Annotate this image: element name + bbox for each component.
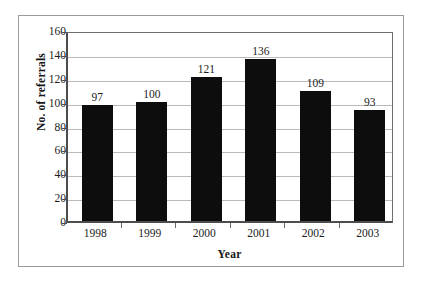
- x-axis-tick-mark: [284, 223, 285, 228]
- bar[interactable]: [354, 110, 385, 221]
- bar[interactable]: [82, 105, 113, 221]
- y-axis-tick-mark: [62, 223, 67, 224]
- bar-value-label: 93: [343, 96, 398, 108]
- y-axis-tick-label: 60: [32, 146, 66, 158]
- y-axis-tick-label: 0: [32, 217, 66, 229]
- plot-area: 9710012113610993: [66, 32, 393, 223]
- x-axis-tick-mark: [121, 223, 122, 228]
- bars-layer: 9710012113610993: [70, 33, 392, 221]
- x-axis-tick-mark: [230, 223, 231, 228]
- bar-slot: 121: [179, 33, 234, 221]
- x-axis-tick-label: 2000: [177, 227, 232, 239]
- chart-figure: No. of referrals 020406080100120140160 9…: [18, 15, 404, 267]
- bar-slot: 93: [343, 33, 398, 221]
- bar-value-label: 100: [125, 88, 180, 100]
- bar[interactable]: [300, 91, 331, 221]
- bar-value-label: 97: [70, 91, 125, 103]
- bar[interactable]: [136, 102, 167, 221]
- x-axis-tick-label: 1998: [68, 227, 123, 239]
- bar-slot: 109: [288, 33, 343, 221]
- x-axis-tick-label: 2002: [286, 227, 341, 239]
- bar[interactable]: [191, 77, 222, 221]
- x-axis-tick-mark: [339, 223, 340, 228]
- x-axis-title: Year: [66, 248, 393, 260]
- x-axis-tick-labels: 199819992000200120022003: [68, 227, 393, 247]
- bar-slot: 136: [234, 33, 289, 221]
- bar-value-label: 136: [234, 45, 289, 57]
- y-axis-tick-label: 140: [32, 50, 66, 62]
- x-axis-tick-label: 2003: [341, 227, 396, 239]
- y-axis-tick-label: 20: [32, 193, 66, 205]
- bar-slot: 100: [125, 33, 180, 221]
- x-axis-tick-mark: [175, 223, 176, 228]
- y-axis-tick-labels: 020406080100120140160: [26, 32, 66, 223]
- bar-value-label: 121: [179, 63, 234, 75]
- bar-value-label: 109: [288, 77, 343, 89]
- y-axis-tick-label: 160: [32, 26, 66, 38]
- y-axis-tick-label: 40: [32, 170, 66, 182]
- x-axis-tick-label: 1999: [123, 227, 178, 239]
- x-axis-tick-label: 2001: [232, 227, 287, 239]
- bar[interactable]: [245, 59, 276, 221]
- y-axis-tick-label: 120: [32, 74, 66, 86]
- y-axis-tick-label: 100: [32, 98, 66, 110]
- y-axis-tick-label: 80: [32, 122, 66, 134]
- bar-slot: 97: [70, 33, 125, 221]
